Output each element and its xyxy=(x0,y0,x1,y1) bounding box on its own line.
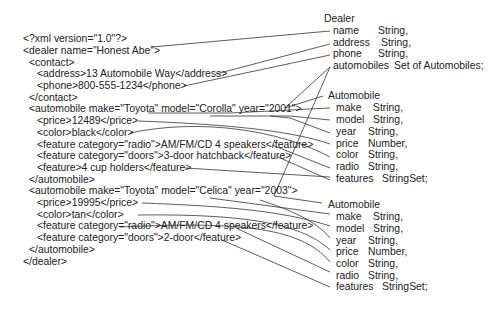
field-type: StringSet; xyxy=(382,281,428,293)
schema-title-automobile: Automobile xyxy=(328,199,380,211)
field-name: radio xyxy=(336,270,359,282)
connector-make-2 xyxy=(210,198,330,214)
xml-line: <automobile make="Toyota" model="Corolla… xyxy=(29,103,302,115)
field-name: name xyxy=(333,25,359,37)
field-name: price xyxy=(336,246,359,258)
field-type: String, xyxy=(368,161,398,173)
xml-line: <feature category="radio">AM/FM/CD 4 spe… xyxy=(37,220,313,232)
field-type: String, xyxy=(368,126,398,138)
field-name: phone xyxy=(333,48,362,60)
xml-line: <dealer name="Honest Abe"> xyxy=(23,45,160,57)
field-type: String, xyxy=(368,270,398,282)
field-name: features xyxy=(336,173,374,185)
field-type: String, xyxy=(381,37,411,49)
schema-title-automobile: Automobile xyxy=(328,90,380,102)
field-type: String, xyxy=(373,114,403,126)
field-name: make xyxy=(336,211,361,223)
xml-line: <color>black</color> xyxy=(37,127,133,139)
xml-line: </dealer> xyxy=(23,256,67,268)
xml-line: <feature>4 cup holders</feature> xyxy=(37,162,191,174)
xml-line: <price>12489</price> xyxy=(37,115,138,127)
xml-line: <feature category="radio">AM/FM/CD 4 spe… xyxy=(37,139,313,151)
xml-line: <feature category="doors">2-door</featur… xyxy=(37,232,241,244)
field-name: radio xyxy=(336,161,359,173)
schema-title-dealer: Dealer xyxy=(324,13,355,25)
field-name: make xyxy=(336,102,361,114)
xml-line: <color>tan</color> xyxy=(37,209,124,221)
field-type: Set of Automobiles; xyxy=(394,60,484,72)
field-type: String, xyxy=(373,102,403,114)
xml-line: <phone>800-555-1234</phone> xyxy=(37,80,187,92)
connector-automobile2-title xyxy=(274,196,322,203)
field-name: color xyxy=(336,149,359,161)
field-type: String, xyxy=(373,223,403,235)
field-type: String, xyxy=(368,149,398,161)
connector-radio-2 xyxy=(238,229,330,272)
connector-name xyxy=(152,31,330,47)
field-name: model xyxy=(336,114,364,126)
xml-line: <contact> xyxy=(29,57,75,69)
field-type: String, xyxy=(378,25,408,37)
xml-line: <feature category="doors">3-door hatchba… xyxy=(37,150,291,162)
field-type: StringSet; xyxy=(382,173,428,185)
connector-features-1b xyxy=(185,168,330,177)
xml-line: <?xml version="1.0"?> xyxy=(23,33,127,45)
field-name: year xyxy=(336,126,356,138)
xml-line: </automobile> xyxy=(29,244,95,256)
field-type: Number, xyxy=(368,138,407,150)
connector-year-1 xyxy=(270,116,330,133)
field-name: model xyxy=(336,223,364,235)
xml-line: </contact> xyxy=(29,92,78,104)
xml-line: <price>19995</price> xyxy=(37,197,138,209)
field-type: Number, xyxy=(368,246,407,258)
field-name: price xyxy=(336,138,359,150)
field-type: String, xyxy=(368,258,398,270)
connector-model-1 xyxy=(210,116,330,120)
field-name: features xyxy=(336,281,374,293)
field-type: String, xyxy=(373,211,403,223)
field-name: year xyxy=(336,235,356,247)
field-name: address xyxy=(333,37,370,49)
field-name: color xyxy=(336,258,359,270)
xml-line: <address>13 Automobile Way</address> xyxy=(37,68,227,80)
xml-line: <automobile make="Toyota" model="Celica"… xyxy=(29,185,298,197)
field-type: String, xyxy=(368,235,398,247)
field-name: automobiles xyxy=(333,60,389,72)
xml-line: </automobile> xyxy=(29,174,95,186)
field-type: String, xyxy=(378,48,408,60)
connector-automobiles-1 xyxy=(285,67,330,108)
xml-to-object-mapping-diagram: <?xml version="1.0"?> <dealer name="Hone… xyxy=(0,0,490,314)
